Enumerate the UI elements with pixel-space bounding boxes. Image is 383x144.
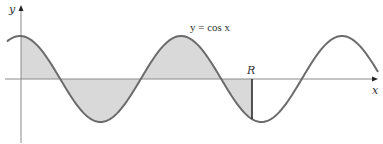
y-axis-arrow-icon — [19, 5, 24, 11]
cutoff-top-text: · · · · · · — [300, 0, 329, 4]
point-r-label: R — [246, 64, 255, 77]
y-axis-label: y — [8, 3, 16, 16]
equation-label: y = cos x — [190, 21, 231, 33]
x-axis-arrow-icon — [372, 77, 378, 82]
x-axis-label: x — [372, 84, 379, 97]
cosine-area-diagram: · · · · · · y x R y = cos x — [0, 0, 383, 144]
